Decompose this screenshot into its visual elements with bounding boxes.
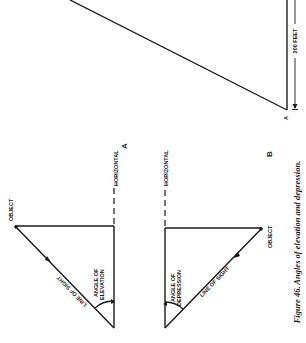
diagram-b-depression: OBJECT HORIZONTAL B LINE OF SIGHT ANGLE … (163, 150, 274, 328)
a-angle-label-line2: ELEVATION (99, 269, 105, 300)
a-line-of-sight-label: LINE OF SIGHT (55, 274, 88, 307)
dimension-label: 200 FEET (292, 28, 298, 53)
top-distance-diagram: 200 FEET A (70, 0, 298, 120)
a-object-label: OBJECT (8, 198, 14, 221)
a-object-point-icon (14, 225, 18, 229)
b-panel-letter: B (265, 151, 274, 157)
top-sloped-line (70, 0, 287, 110)
a-horizontal-label: HORIZONTAL (113, 150, 119, 186)
b-object-label: OBJECT (267, 225, 273, 248)
figure-angles-elevation-depression: 200 FEET A OBJECT HORIZONTAL A LINE OF S… (0, 0, 306, 343)
diagram-a-elevation: OBJECT HORIZONTAL A LINE OF SIGHT ANGLE … (8, 143, 129, 328)
figure-caption: Figure 46. Angles of elevation and depre… (292, 161, 302, 325)
b-object-point-icon (259, 227, 263, 231)
b-line-of-sight-label: LINE OF SIGHT (198, 265, 231, 298)
b-horizontal-label: HORIZONTAL (163, 150, 169, 186)
a-panel-letter: A (120, 143, 129, 149)
point-a-label: A (283, 116, 289, 120)
b-angle-label-line2: DEPRESSION (176, 270, 182, 306)
dimension-arrow-icon (293, 104, 298, 109)
